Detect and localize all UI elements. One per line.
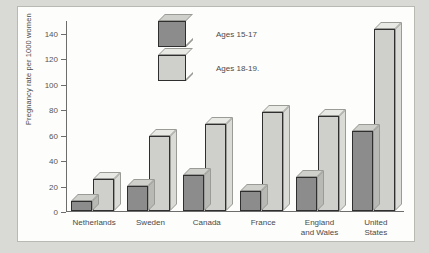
y-tick-label: 40 xyxy=(49,157,58,166)
y-tick-mark xyxy=(61,59,66,60)
y-tick-mark xyxy=(61,110,66,111)
plot-area: 020406080100120140 NetherlandsSwedenCana… xyxy=(66,21,406,212)
bar-france-series-1 xyxy=(240,191,261,211)
bar-side-face xyxy=(226,117,233,211)
bar-side-face xyxy=(339,109,346,212)
bar-canada-series-1 xyxy=(183,175,204,211)
bar-sweden-series-1 xyxy=(127,186,148,211)
bar-front-face xyxy=(352,131,373,211)
legend-label-ages-18-19: Ages 18-19. xyxy=(216,64,259,73)
category-label-netherlands: Netherlands xyxy=(66,218,122,228)
bar-front-face xyxy=(240,191,261,211)
y-tick-label: 140 xyxy=(45,29,58,38)
bar-side-face xyxy=(373,124,380,211)
y-axis-line xyxy=(66,21,67,212)
y-tick-mark xyxy=(61,212,66,213)
swatch-front-face xyxy=(158,55,186,81)
bar-england-and-wales-series-1 xyxy=(296,177,317,211)
y-tick-mark xyxy=(61,187,66,188)
chart-page: Pregnancy rate per 1000 women 0204060801… xyxy=(0,0,429,253)
bar-netherlands-series-1 xyxy=(71,201,92,211)
y-axis-title: Pregnancy rate per 1000 women xyxy=(24,13,33,125)
swatch-top-face xyxy=(158,14,193,21)
y-tick-mark xyxy=(61,85,66,86)
y-tick-mark xyxy=(61,161,66,162)
y-tick-label: 100 xyxy=(45,80,58,89)
swatch-front-face xyxy=(158,21,186,47)
category-label-england-and-wales: England and Wales xyxy=(291,218,347,237)
bar-front-face xyxy=(71,201,92,211)
y-tick-mark xyxy=(61,136,66,137)
bar-front-face xyxy=(183,175,204,211)
chart-card: Pregnancy rate per 1000 women 0204060801… xyxy=(17,6,415,242)
y-tick-label: 120 xyxy=(45,55,58,64)
bar-united-states-series-1 xyxy=(352,131,373,211)
y-tick-mark xyxy=(61,34,66,35)
legend-swatch-dark xyxy=(158,21,186,47)
category-label-sweden: Sweden xyxy=(122,218,178,228)
category-label-canada: Canada xyxy=(179,218,235,228)
category-label-united-states: United States xyxy=(348,218,404,237)
y-tick-label: 80 xyxy=(49,106,58,115)
legend-label-ages-15-17: Ages 15-17 xyxy=(216,30,257,39)
legend-swatch-light xyxy=(158,55,186,81)
bar-front-face xyxy=(296,177,317,211)
y-tick-label: 20 xyxy=(49,182,58,191)
bar-side-face xyxy=(170,129,177,211)
y-tick-label: 0 xyxy=(54,208,58,217)
bar-side-face xyxy=(395,22,402,211)
x-axis-line xyxy=(66,211,404,212)
bar-front-face xyxy=(127,186,148,211)
category-label-france: France xyxy=(235,218,291,228)
bar-side-face xyxy=(283,105,290,211)
y-tick-label: 60 xyxy=(49,131,58,140)
